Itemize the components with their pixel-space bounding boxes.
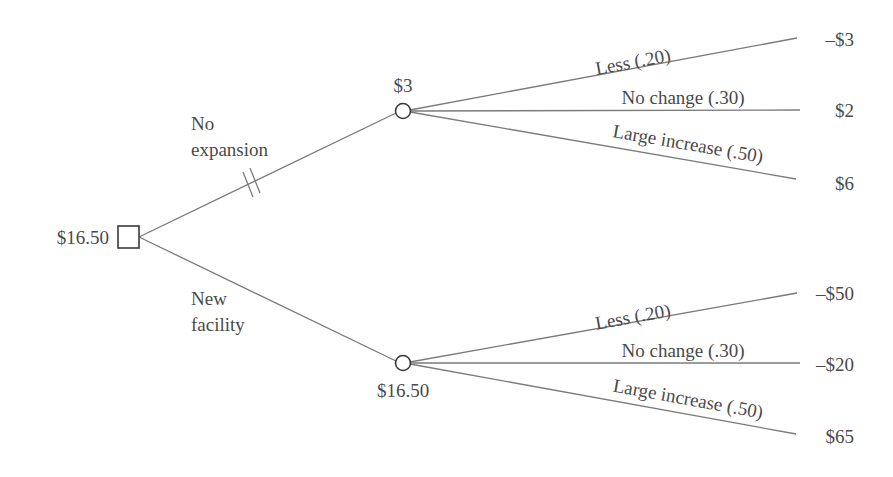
payoff-lower-less: –$50 bbox=[815, 283, 854, 304]
decision-tree-diagram: $16.50 No expansion New facility $3 $16.… bbox=[0, 0, 893, 477]
outcome-label-lower-large: Large increase (.50) bbox=[611, 375, 765, 424]
branch-no-expansion bbox=[139, 113, 396, 237]
outcome-label-upper-less: Less (.20) bbox=[594, 44, 673, 79]
payoff-upper-large: $6 bbox=[835, 173, 854, 194]
branch-label-facility: facility bbox=[191, 314, 245, 335]
chance-node-upper-circle-icon bbox=[396, 104, 411, 119]
decision-node-square-icon bbox=[118, 226, 139, 248]
payoff-upper-less: –$3 bbox=[825, 29, 855, 50]
root-value: $16.50 bbox=[57, 227, 109, 248]
payoff-lower-large: $65 bbox=[826, 426, 855, 447]
branch-label-new: New bbox=[191, 288, 227, 309]
outcome-branch-upper-nochange bbox=[411, 110, 800, 111]
payoff-upper-nochange: $2 bbox=[835, 100, 854, 121]
chance-node-lower-circle-icon bbox=[396, 356, 411, 371]
outcome-label-upper-nochange: No change (.30) bbox=[622, 87, 745, 109]
outcome-label-lower-nochange: No change (.30) bbox=[622, 340, 745, 362]
chance-node-upper-value: $3 bbox=[394, 75, 413, 96]
branch-label-expansion: expansion bbox=[191, 139, 269, 160]
outcome-label-lower-less: Less (.20) bbox=[594, 300, 673, 335]
branch-label-no: No bbox=[191, 113, 214, 134]
payoff-lower-nochange: –$20 bbox=[815, 354, 854, 375]
branch-new-facility bbox=[139, 237, 396, 361]
chance-node-lower-value: $16.50 bbox=[377, 380, 429, 401]
